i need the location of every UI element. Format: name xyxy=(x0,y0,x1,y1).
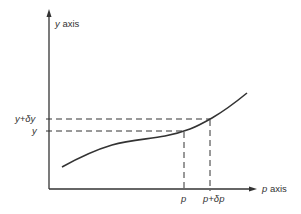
tick-label-p: p xyxy=(180,193,186,204)
y-axis-arrow-icon xyxy=(47,9,52,17)
diagram-canvas: y axis p axis y+δy y p p+δp xyxy=(0,0,301,214)
function-curve xyxy=(62,93,247,167)
x-axis-label: p axis xyxy=(261,183,287,194)
x-axis-arrow-icon xyxy=(249,187,257,192)
tick-label-y-plus-delta-y: y+δy xyxy=(14,113,37,124)
tick-label-y: y xyxy=(31,125,38,136)
tick-label-p-plus-delta-p: p+δp xyxy=(202,193,224,204)
y-axis-label: y axis xyxy=(54,18,80,29)
